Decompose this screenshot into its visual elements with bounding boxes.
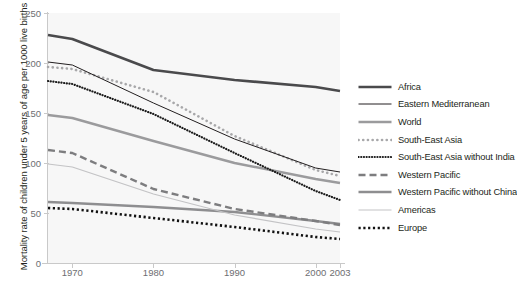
y-tick-mark (44, 13, 49, 14)
x-tick-label: 1990 (224, 267, 245, 278)
plot-area (48, 13, 340, 263)
legend-item-label: Western Pacific without China (398, 187, 517, 197)
x-tick-mark (153, 264, 154, 268)
x-tick-mark (340, 264, 341, 268)
legend-item[interactable]: Europe (358, 219, 509, 237)
y-tick-label: 0 (0, 258, 46, 269)
series-line (48, 35, 340, 91)
legend-item[interactable]: World (358, 113, 509, 131)
x-tick-label: 2003 (329, 267, 350, 278)
x-axis-line (42, 263, 345, 264)
y-tick-label: 50 (0, 208, 46, 219)
y-tick-mark (44, 213, 49, 214)
x-tick-label: 2000 (305, 267, 326, 278)
legend-item[interactable]: Africa (358, 78, 509, 96)
legend-item[interactable]: Americas (358, 201, 509, 219)
legend-item-label: South-East Asia (398, 135, 462, 145)
series-line (48, 62, 340, 172)
legend-item-label: Americas (398, 205, 436, 215)
legend-item-label: World (398, 117, 421, 127)
x-tick-mark (235, 264, 236, 268)
legend-line-swatch-icon (358, 204, 392, 216)
legend-item[interactable]: Western Pacific (358, 166, 509, 184)
legend-line-swatch-icon (358, 98, 392, 110)
y-tick-label: 200 (0, 58, 46, 69)
legend-line-swatch-icon (358, 186, 392, 198)
y-tick-label: 250 (0, 8, 46, 19)
legend-item-label: Eastern Mediterranean (398, 99, 489, 109)
series-line (48, 81, 340, 200)
y-tick-mark (44, 263, 49, 264)
legend-item-label: South-East Asia without India (398, 152, 515, 162)
legend-item-label: Africa (398, 82, 421, 92)
y-tick-mark (44, 163, 49, 164)
series-line (48, 202, 340, 224)
legend-item[interactable]: Eastern Mediterranean (358, 96, 509, 114)
legend-item[interactable]: South-East Asia without India (358, 148, 509, 166)
legend-line-swatch-icon (358, 169, 392, 181)
legend-item-label: Western Pacific (398, 170, 460, 180)
y-tick-label: 100 (0, 158, 46, 169)
series-lines (48, 13, 340, 263)
legend-item[interactable]: Western Pacific without China (358, 184, 509, 202)
y-tick-mark (44, 63, 49, 64)
legend-line-swatch-icon (358, 134, 392, 146)
x-tick-mark (316, 264, 317, 268)
chart-legend: AfricaEastern MediterraneanWorldSouth-Ea… (358, 78, 509, 236)
y-tick-mark (44, 113, 49, 114)
x-tick-mark (72, 264, 73, 268)
x-tick-label: 1980 (143, 267, 164, 278)
series-line (48, 208, 340, 239)
legend-line-swatch-icon (358, 151, 392, 163)
legend-item-label: Europe (398, 223, 427, 233)
legend-line-swatch-icon (358, 116, 392, 128)
y-tick-label: 150 (0, 108, 46, 119)
legend-item[interactable]: South-East Asia (358, 131, 509, 149)
y-axis-title: Mortality rate of children under 5 years… (18, 2, 29, 272)
series-line (48, 115, 340, 183)
legend-line-swatch-icon (358, 81, 392, 93)
x-tick-label: 1970 (62, 267, 83, 278)
legend-line-swatch-icon (358, 222, 392, 234)
